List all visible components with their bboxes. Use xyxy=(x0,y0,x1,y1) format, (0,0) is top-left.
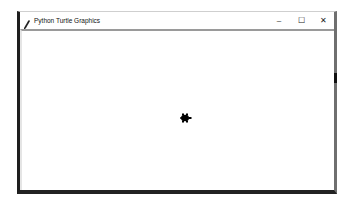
window-title: Python Turtle Graphics xyxy=(34,17,100,24)
maximize-button[interactable]: ☐ xyxy=(290,12,312,29)
window-controls: – ☐ ✕ xyxy=(268,12,334,29)
window-edge-marker xyxy=(334,73,337,83)
close-button[interactable]: ✕ xyxy=(312,12,334,29)
turtle-canvas[interactable] xyxy=(22,31,334,190)
feather-icon xyxy=(23,16,31,26)
turtle-icon xyxy=(179,109,193,119)
turtle-window: Python Turtle Graphics – ☐ ✕ xyxy=(17,11,337,194)
canvas-frame xyxy=(20,29,334,190)
title-bar[interactable]: Python Turtle Graphics – ☐ ✕ xyxy=(20,12,334,29)
minimize-button[interactable]: – xyxy=(268,12,290,29)
